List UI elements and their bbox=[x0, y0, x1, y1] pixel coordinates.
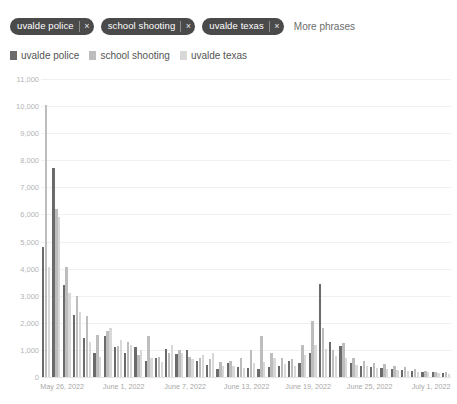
x-axis-tick-label: June 13, 2022 bbox=[224, 382, 270, 391]
bar[interactable] bbox=[171, 345, 173, 378]
y-axis-tick-label: 11,000 bbox=[3, 75, 39, 84]
legend-swatch-icon bbox=[10, 51, 17, 60]
gridline bbox=[41, 79, 451, 80]
y-axis-tick-label: 3,000 bbox=[3, 291, 39, 300]
gridline bbox=[41, 106, 451, 107]
y-axis-tick-label: 9,000 bbox=[3, 129, 39, 138]
chart-legend: uvalde policeschool shootinguvalde texas bbox=[0, 38, 457, 63]
gridline bbox=[41, 296, 451, 297]
phrase-chip-label: uvalde police bbox=[17, 21, 79, 31]
bar[interactable] bbox=[109, 328, 111, 377]
bar[interactable] bbox=[99, 357, 101, 377]
bar[interactable] bbox=[48, 267, 50, 377]
phrase-chip-bar: uvalde police × school shooting × uvalde… bbox=[0, 0, 457, 38]
bar[interactable] bbox=[263, 362, 265, 377]
y-axis-tick-label: 1,000 bbox=[3, 345, 39, 354]
bar[interactable] bbox=[325, 349, 327, 377]
close-icon[interactable]: × bbox=[181, 18, 195, 35]
phrase-chip[interactable]: uvalde police × bbox=[10, 18, 94, 35]
close-icon[interactable]: × bbox=[270, 18, 284, 35]
x-axis-tick-label: July 1, 2022 bbox=[412, 382, 451, 391]
bar[interactable] bbox=[335, 356, 337, 377]
bar[interactable] bbox=[304, 355, 306, 377]
bar[interactable] bbox=[89, 342, 91, 377]
bar[interactable] bbox=[120, 340, 122, 377]
bar[interactable] bbox=[355, 365, 357, 377]
y-axis-tick-label: 0 bbox=[3, 373, 39, 382]
x-axis-line bbox=[41, 377, 451, 378]
bar[interactable] bbox=[191, 359, 193, 377]
legend-swatch-icon bbox=[180, 51, 187, 60]
gridline bbox=[41, 350, 451, 351]
more-phrases-link[interactable]: More phrases bbox=[294, 21, 355, 32]
bar[interactable] bbox=[79, 312, 81, 377]
gridline bbox=[41, 242, 451, 243]
x-axis-tick-label: June 25, 2022 bbox=[347, 382, 393, 391]
bar[interactable] bbox=[314, 345, 316, 378]
legend-item[interactable]: uvalde police bbox=[10, 50, 79, 61]
bar[interactable] bbox=[140, 350, 142, 377]
gridline bbox=[41, 323, 451, 324]
bar[interactable] bbox=[284, 364, 286, 377]
phrase-chip[interactable]: school shooting × bbox=[101, 18, 196, 35]
bar[interactable] bbox=[222, 366, 224, 377]
x-axis-tick-label: June 7, 2022 bbox=[164, 382, 206, 391]
phrase-chip-label: uvalde texas bbox=[209, 21, 269, 31]
y-axis-tick-label: 2,000 bbox=[3, 318, 39, 327]
gridline bbox=[41, 214, 451, 215]
legend-item[interactable]: uvalde texas bbox=[180, 50, 247, 61]
y-axis-tick-label: 4,000 bbox=[3, 264, 39, 273]
y-axis-tick-label: 6,000 bbox=[3, 210, 39, 219]
phrase-chip[interactable]: uvalde texas × bbox=[202, 18, 284, 35]
bar[interactable] bbox=[58, 217, 60, 377]
legend-item-label: uvalde police bbox=[21, 50, 79, 61]
x-axis-tick-label: May 26, 2022 bbox=[40, 382, 84, 391]
bar[interactable] bbox=[253, 363, 255, 377]
bar[interactable] bbox=[232, 366, 234, 377]
bar[interactable] bbox=[161, 362, 163, 377]
bar[interactable] bbox=[273, 358, 275, 377]
phrase-chip-label: school shooting bbox=[108, 21, 181, 31]
gridline bbox=[41, 133, 451, 134]
gridline bbox=[41, 187, 451, 188]
bar[interactable] bbox=[396, 370, 398, 377]
bar[interactable] bbox=[202, 355, 204, 377]
bar[interactable] bbox=[68, 293, 70, 377]
bar[interactable] bbox=[386, 369, 388, 377]
y-axis-tick-label: 8,000 bbox=[3, 156, 39, 165]
close-icon[interactable]: × bbox=[80, 18, 94, 35]
bar[interactable] bbox=[212, 353, 214, 377]
legend-item[interactable]: school shooting bbox=[89, 50, 170, 61]
bar[interactable] bbox=[376, 368, 378, 377]
bar[interactable] bbox=[150, 358, 152, 377]
bar-chart: 01,0002,0003,0004,0005,0006,0007,0008,00… bbox=[0, 74, 457, 404]
bar[interactable] bbox=[243, 368, 245, 377]
y-axis-tick-label: 7,000 bbox=[3, 183, 39, 192]
bar[interactable] bbox=[345, 358, 347, 378]
bar[interactable] bbox=[130, 345, 132, 378]
legend-item-label: uvalde texas bbox=[191, 50, 247, 61]
bar[interactable] bbox=[366, 366, 368, 377]
bar[interactable] bbox=[294, 366, 296, 377]
y-axis-tick-label: 10,000 bbox=[3, 102, 39, 111]
y-axis-tick-label: 5,000 bbox=[3, 237, 39, 246]
plot-area bbox=[41, 79, 451, 377]
y-axis: 01,0002,0003,0004,0005,0006,0007,0008,00… bbox=[0, 79, 39, 377]
x-axis-tick-label: June 19, 2022 bbox=[285, 382, 331, 391]
gridline bbox=[41, 160, 451, 161]
gridline bbox=[41, 269, 451, 270]
legend-item-label: school shooting bbox=[100, 50, 170, 61]
x-axis-tick-label: June 1, 2022 bbox=[103, 382, 145, 391]
legend-swatch-icon bbox=[89, 51, 96, 60]
bar[interactable] bbox=[181, 353, 183, 377]
